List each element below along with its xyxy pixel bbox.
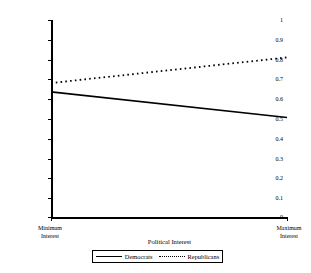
legend-entry-democrats: Democrats [96, 253, 153, 260]
data-lines-layer [51, 20, 288, 218]
legend-line-dotted-icon [159, 256, 185, 257]
plot-area: 1 0.9 0.8 0.7 0.6 0.5 0.4 0.3 0.2 0.1 0 … [51, 20, 288, 218]
x-axis-min-label-line1: Minimum [38, 225, 62, 231]
x-axis-max-label-line1: Maximum [277, 225, 302, 231]
series-line-republicans [51, 57, 287, 83]
chart-figure: 1 0.9 0.8 0.7 0.6 0.5 0.4 0.3 0.2 0.1 0 … [0, 0, 311, 273]
series-line-democrats [51, 92, 287, 118]
legend-label-democrats: Democrats [125, 253, 153, 260]
chart-legend: Democrats Republicans [92, 250, 223, 263]
x-axis-title: Political Interest [51, 238, 288, 245]
legend-entry-republicans: Republicans [159, 253, 220, 260]
legend-label-republicans: Republicans [188, 253, 220, 260]
legend-line-solid-icon [96, 256, 122, 257]
